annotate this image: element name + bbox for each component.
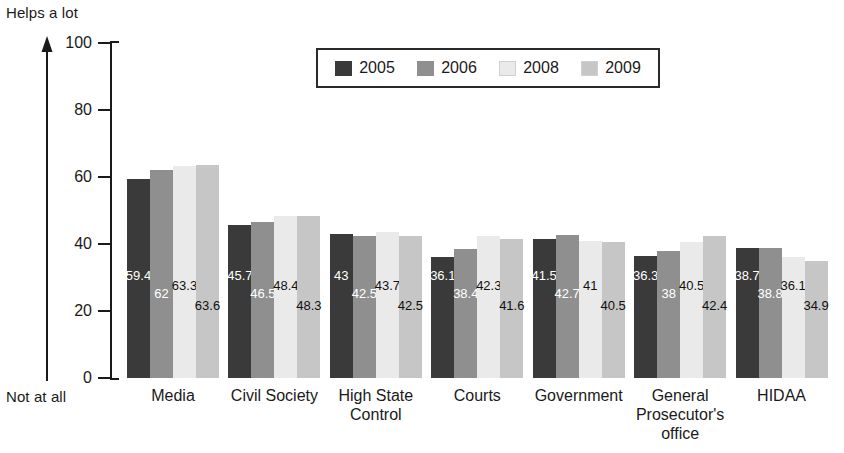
bar-value-label: 42.4 (702, 299, 727, 312)
bar-group: 59.46263.363.6 (127, 43, 219, 378)
bar-value-label: 46.5 (250, 287, 275, 300)
bar-2008: 63.3 (173, 166, 196, 378)
y-axis-bottom-cap (110, 378, 119, 380)
bar-group: 38.738.836.134.9 (736, 43, 828, 378)
bar-group: 45.746.548.448.3 (228, 43, 320, 378)
bar-2006: 38.8 (759, 248, 782, 378)
bar-2005: 38.7 (736, 248, 759, 378)
category-label-line: Prosecutor's (620, 405, 740, 424)
bar-2006: 62 (150, 170, 173, 378)
bar-value-label: 40.5 (679, 279, 704, 292)
bar-2008: 41 (579, 241, 602, 378)
y-axis-tick (98, 310, 110, 312)
bar-value-label: 63.6 (195, 299, 220, 312)
y-axis-tick (98, 42, 110, 44)
up-arrow-icon (40, 36, 54, 381)
y-axis-tick (98, 176, 110, 178)
category-label: HIDAA (722, 386, 842, 405)
bar-2009: 63.6 (196, 165, 219, 378)
bar-value-label: 62 (154, 287, 168, 300)
y-axis-tick-label: 40 (30, 235, 92, 253)
y-axis-tick-label: 60 (30, 168, 92, 186)
bar-value-label: 40.5 (601, 299, 626, 312)
bar-group-bars: 38.738.836.134.9 (736, 43, 828, 378)
bar-group-bars: 36.138.442.341.6 (431, 43, 523, 378)
bar-value-label: 48.3 (296, 299, 321, 312)
bar-2005: 36.3 (634, 256, 657, 378)
bar-group: 36.138.442.341.6 (431, 43, 523, 378)
bar-value-label: 38.7 (734, 269, 759, 282)
y-axis-tick-label: 20 (30, 302, 92, 320)
bar-value-label: 36.1 (430, 269, 455, 282)
bar-group-bars: 45.746.548.448.3 (228, 43, 320, 378)
y-axis-tick-label: 0 (30, 369, 92, 387)
bar-2008: 36.1 (782, 257, 805, 378)
y-axis-tick-label: 80 (30, 101, 92, 119)
bar-value-label: 41.6 (499, 299, 524, 312)
bar-2008: 43.7 (376, 232, 399, 378)
bar-value-label: 42.5 (352, 287, 377, 300)
bar-2009: 41.6 (500, 239, 523, 378)
bar-value-label: 42.5 (398, 299, 423, 312)
bar-2008: 48.4 (274, 216, 297, 378)
bar-value-label: 34.9 (803, 299, 828, 312)
bar-value-label: 63.3 (172, 279, 197, 292)
bar-value-label: 36.3 (633, 269, 658, 282)
bar-value-label: 41 (583, 279, 597, 292)
bar-2009: 42.4 (703, 236, 726, 378)
plot-area: 59.46263.363.645.746.548.448.34342.543.7… (110, 43, 836, 378)
bar-2005: 59.4 (127, 179, 150, 378)
bar-group: 36.33840.542.4 (634, 43, 726, 378)
y-axis-tick (98, 377, 110, 379)
bar-value-label: 45.7 (227, 269, 252, 282)
bar-2006: 46.5 (251, 222, 274, 378)
bar-2006: 38.4 (454, 249, 477, 378)
bar-2005: 36.1 (431, 257, 454, 378)
bar-2009: 42.5 (399, 236, 422, 378)
bar-2008: 40.5 (680, 242, 703, 378)
bar-value-label: 38 (661, 287, 675, 300)
bar-value-label: 36.1 (780, 279, 805, 292)
bar-2008: 42.3 (477, 236, 500, 378)
bar-value-label: 38.8 (757, 287, 782, 300)
bar-group-bars: 59.46263.363.6 (127, 43, 219, 378)
bar-2006: 42.7 (556, 235, 579, 378)
bar-group: 41.542.74140.5 (533, 43, 625, 378)
axis-top-label: Helps a lot (6, 4, 78, 21)
bar-2006: 38 (657, 251, 680, 378)
bar-value-label: 43.7 (375, 279, 400, 292)
bar-group-bars: 4342.543.742.5 (330, 43, 422, 378)
bar-2005: 43 (330, 234, 353, 378)
bar-group: 4342.543.742.5 (330, 43, 422, 378)
y-axis-tick (98, 109, 110, 111)
bar-2005: 41.5 (533, 239, 556, 378)
bar-value-label: 59.4 (126, 269, 151, 282)
bar-value-label: 42.3 (476, 279, 501, 292)
bar-2009: 48.3 (297, 216, 320, 378)
y-axis-tick (98, 243, 110, 245)
category-label-line: office (620, 424, 740, 443)
bar-2005: 45.7 (228, 225, 251, 378)
bar-value-label: 42.7 (555, 287, 580, 300)
bar-value-label: 43 (334, 269, 348, 282)
bar-2009: 34.9 (805, 261, 828, 378)
bar-value-label: 38.4 (453, 287, 478, 300)
bar-group-bars: 36.33840.542.4 (634, 43, 726, 378)
bar-chart: Helps a lot Not at all 020406080100 2005… (0, 0, 844, 453)
category-label-line: Control (316, 405, 436, 424)
bar-2009: 40.5 (602, 242, 625, 378)
y-axis-tick-label: 100 (30, 34, 92, 52)
category-label-line: HIDAA (722, 386, 842, 405)
bar-2006: 42.5 (353, 236, 376, 378)
bar-value-label: 48.4 (273, 279, 298, 292)
axis-bottom-label: Not at all (6, 388, 66, 405)
bar-value-label: 41.5 (532, 269, 557, 282)
bar-group-bars: 41.542.74140.5 (533, 43, 625, 378)
